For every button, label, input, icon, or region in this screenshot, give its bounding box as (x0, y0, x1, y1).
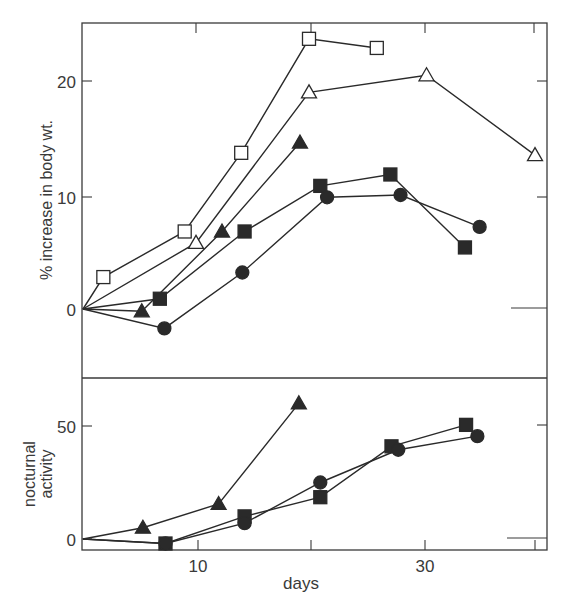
top-ytick-20: 20 (57, 73, 76, 92)
filled-circle-marker (314, 476, 327, 489)
open-square-marker (178, 225, 191, 238)
filled-triangle-marker (292, 135, 307, 148)
open-square-marker (97, 271, 110, 284)
filled-circle-marker (238, 517, 251, 530)
filled-triangle-marker (291, 396, 306, 409)
top-axis-ticks (82, 23, 547, 550)
bottom-ytick-50: 50 (57, 418, 76, 437)
bottom-ytick-0: 0 (67, 531, 76, 550)
bottom-plot-series (83, 396, 484, 550)
filled-circle-marker (392, 443, 405, 456)
filled-circle-marker (394, 189, 407, 202)
filled-square-marker (238, 225, 251, 238)
filled-circle-marker (158, 322, 171, 335)
series-line-filled-triangle (83, 403, 299, 539)
bottom-y-axis-label-line2: activity (38, 450, 55, 499)
filled-circle-marker (321, 191, 334, 204)
filled-square-marker (460, 418, 473, 431)
top-plot-series (83, 32, 543, 335)
filled-square-marker (384, 168, 397, 181)
top-ytick-0: 0 (67, 301, 76, 320)
filled-square-marker (153, 292, 166, 305)
open-triangle-marker (419, 68, 434, 81)
x-axis-label: days (283, 574, 319, 593)
chart: 20 10 0 50 0 10 30 % increase in body wt… (0, 0, 566, 602)
open-square-marker (235, 146, 248, 159)
bottom-y-axis-label-line1: nocturnal (21, 441, 38, 507)
filled-circle-marker (473, 220, 486, 233)
xtick-30: 30 (416, 557, 435, 576)
series-line-open-square (83, 39, 377, 309)
filled-square-marker (314, 179, 327, 192)
filled-circle-marker (159, 537, 172, 550)
xtick-10: 10 (189, 557, 208, 576)
open-square-marker (370, 41, 383, 54)
plot-frame (82, 23, 547, 550)
top-ytick-10: 10 (57, 189, 76, 208)
filled-square-marker (314, 491, 327, 504)
filled-circle-marker (236, 266, 249, 279)
open-square-marker (303, 32, 316, 45)
open-triangle-marker (528, 148, 543, 161)
top-y-axis-label: % increase in body wt. (38, 120, 55, 280)
filled-square-marker (458, 241, 471, 254)
filled-circle-marker (471, 430, 484, 443)
